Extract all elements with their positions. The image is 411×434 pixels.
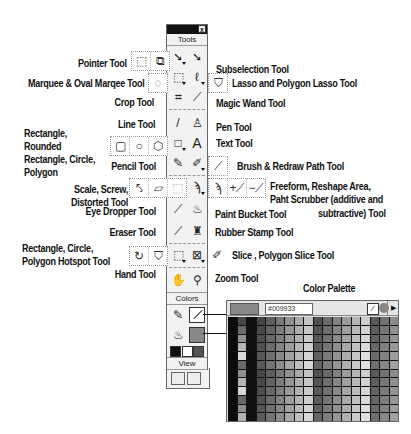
- color-swatch[interactable]: [361, 343, 370, 351]
- color-swatch[interactable]: [371, 378, 380, 386]
- color-swatch[interactable]: [390, 413, 399, 421]
- color-swatch[interactable]: [380, 326, 389, 334]
- color-swatch[interactable]: [295, 370, 304, 378]
- color-swatch[interactable]: [247, 352, 256, 360]
- color-swatch[interactable]: [323, 378, 332, 386]
- color-swatch[interactable]: [285, 370, 294, 378]
- color-swatch[interactable]: [276, 335, 285, 343]
- color-swatch[interactable]: [257, 413, 266, 421]
- close-button[interactable]: x: [198, 25, 206, 33]
- color-swatch[interactable]: [285, 413, 294, 421]
- color-swatch[interactable]: [380, 352, 389, 360]
- polygon-hotspot-icon[interactable]: ⛉: [149, 247, 167, 265]
- color-swatch[interactable]: [323, 361, 332, 369]
- color-swatch[interactable]: [228, 370, 237, 378]
- color-swatch[interactable]: [314, 343, 323, 351]
- hand-tool-icon[interactable]: ✋: [169, 271, 187, 289]
- oval-marquee-icon[interactable]: ◌: [149, 74, 167, 92]
- color-swatch[interactable]: [352, 361, 361, 369]
- color-swatch[interactable]: [323, 326, 332, 334]
- circle-hotspot-icon[interactable]: ↻: [130, 247, 149, 265]
- fill-color-swatch[interactable]: [189, 327, 205, 343]
- color-swatch[interactable]: [323, 317, 332, 325]
- color-swatch[interactable]: [276, 396, 285, 404]
- color-swatch[interactable]: [257, 387, 266, 395]
- color-swatch[interactable]: [390, 396, 399, 404]
- color-swatch[interactable]: [390, 405, 399, 413]
- color-swatch[interactable]: [333, 343, 342, 351]
- color-swatch[interactable]: [247, 370, 256, 378]
- color-swatch[interactable]: [276, 378, 285, 386]
- color-swatch[interactable]: [304, 317, 313, 325]
- color-swatch[interactable]: [276, 370, 285, 378]
- color-swatch[interactable]: [257, 326, 266, 334]
- color-swatch[interactable]: [238, 378, 247, 386]
- color-swatch[interactable]: [285, 335, 294, 343]
- color-swatch[interactable]: [380, 343, 389, 351]
- color-swatch[interactable]: [238, 413, 247, 421]
- color-swatch[interactable]: [304, 405, 313, 413]
- paint-bucket-tool-icon[interactable]: ♨: [188, 200, 206, 218]
- color-swatch[interactable]: [276, 343, 285, 351]
- color-swatch[interactable]: [257, 405, 266, 413]
- color-swatch[interactable]: [352, 335, 361, 343]
- palette-options-arrow[interactable]: ▶: [387, 301, 398, 315]
- color-swatch-grid[interactable]: [228, 317, 398, 421]
- select-behind-icon[interactable]: ⧉: [151, 52, 169, 70]
- color-swatch[interactable]: [266, 396, 275, 404]
- color-swatch[interactable]: [314, 405, 323, 413]
- color-swatch[interactable]: [276, 326, 285, 334]
- color-swatch[interactable]: [323, 352, 332, 360]
- color-swatch[interactable]: [371, 413, 380, 421]
- color-swatch[interactable]: [352, 352, 361, 360]
- color-swatch[interactable]: [304, 352, 313, 360]
- color-swatch[interactable]: [285, 405, 294, 413]
- color-swatch[interactable]: [266, 326, 275, 334]
- color-swatch[interactable]: [285, 326, 294, 334]
- color-swatch[interactable]: [238, 387, 247, 395]
- color-swatch[interactable]: [333, 378, 342, 386]
- color-swatch[interactable]: [361, 370, 370, 378]
- pen-tool-icon[interactable]: ♙: [188, 114, 206, 132]
- color-swatch[interactable]: [228, 343, 237, 351]
- color-swatch[interactable]: [285, 396, 294, 404]
- color-swatch[interactable]: [314, 413, 323, 421]
- redraw-path-icon[interactable]: ⟋: [209, 157, 227, 175]
- color-swatch[interactable]: [304, 326, 313, 334]
- color-swatch[interactable]: [238, 352, 247, 360]
- color-swatch[interactable]: [390, 361, 399, 369]
- color-swatch[interactable]: [304, 361, 313, 369]
- color-swatch[interactable]: [228, 361, 237, 369]
- color-swatch[interactable]: [266, 343, 275, 351]
- color-swatch[interactable]: [371, 396, 380, 404]
- color-swatch[interactable]: [333, 326, 342, 334]
- color-swatch[interactable]: [228, 413, 237, 421]
- color-swatch[interactable]: [361, 396, 370, 404]
- color-swatch[interactable]: [323, 370, 332, 378]
- color-swatch[interactable]: [342, 343, 351, 351]
- color-swatch[interactable]: [342, 335, 351, 343]
- zoom-tool-icon[interactable]: ⚲: [188, 271, 206, 289]
- color-swatch[interactable]: [276, 413, 285, 421]
- color-swatch[interactable]: [371, 387, 380, 395]
- color-swatch[interactable]: [314, 370, 323, 378]
- color-swatch[interactable]: [390, 370, 399, 378]
- color-swatch[interactable]: [247, 396, 256, 404]
- color-swatch[interactable]: [390, 343, 399, 351]
- color-swatch[interactable]: [352, 396, 361, 404]
- color-swatch[interactable]: [314, 396, 323, 404]
- color-swatch[interactable]: [333, 317, 342, 325]
- color-swatch[interactable]: [228, 387, 237, 395]
- color-swatch[interactable]: [342, 352, 351, 360]
- color-swatch[interactable]: [314, 387, 323, 395]
- eye-dropper-tool-icon[interactable]: ⟋: [169, 200, 187, 218]
- color-swatch[interactable]: [314, 352, 323, 360]
- color-swatch[interactable]: [238, 370, 247, 378]
- color-swatch[interactable]: [266, 352, 275, 360]
- color-swatch[interactable]: [361, 317, 370, 325]
- no-color-icon[interactable]: [182, 346, 193, 357]
- color-swatch[interactable]: [247, 405, 256, 413]
- path-scrubber-plus-icon[interactable]: +⟋: [228, 179, 247, 197]
- swap-colors-icon[interactable]: [193, 346, 204, 357]
- rectangle-tool-icon[interactable]: □: [169, 134, 187, 152]
